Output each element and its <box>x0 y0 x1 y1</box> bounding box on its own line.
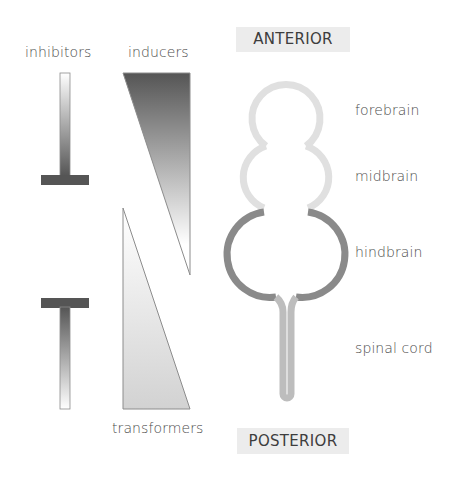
transformers-label: transformers <box>112 420 204 436</box>
inducers-label: inducers <box>128 44 189 60</box>
hindbrain-segment <box>227 212 345 297</box>
spinal-cord-segment <box>276 297 296 398</box>
posterior-label: POSTERIOR <box>237 428 349 454</box>
inhibitor-bottom-symbol <box>41 298 89 409</box>
neural-tube <box>227 85 345 398</box>
neural-patterning-diagram <box>0 0 471 482</box>
inhibitor-top-symbol <box>41 73 89 185</box>
hindbrain-label: hindbrain <box>355 244 422 260</box>
inhibitors-label: inhibitors <box>25 44 91 60</box>
spinal-cord-label: spinal cord <box>355 340 433 356</box>
forebrain-label: forebrain <box>355 102 419 118</box>
midbrain-label: midbrain <box>355 168 418 184</box>
midbrain-segment <box>243 146 328 208</box>
anterior-label: ANTERIOR <box>236 27 350 52</box>
forebrain-segment <box>252 85 320 146</box>
